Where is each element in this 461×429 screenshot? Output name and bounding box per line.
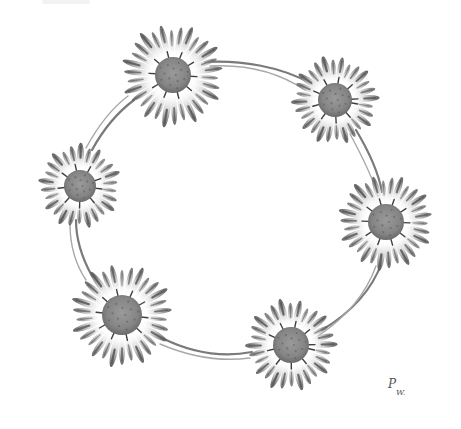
flower-center — [64, 170, 96, 202]
daisy-top-left — [122, 25, 223, 128]
petal — [403, 220, 428, 225]
stem-top-right-to-right — [356, 130, 382, 192]
flower-center — [155, 57, 191, 93]
daisy-right — [338, 176, 432, 271]
daisy-left — [38, 143, 121, 229]
petal — [308, 341, 338, 348]
flower-center — [318, 83, 352, 117]
daisy-wreath-illustration — [0, 0, 461, 429]
flowers — [38, 25, 432, 391]
stem-left-to-top-left — [92, 100, 134, 150]
flower-center — [102, 295, 142, 335]
petal — [120, 270, 124, 295]
signature-initial-p: P — [388, 378, 396, 390]
petal — [171, 93, 178, 125]
daisy-top-right — [291, 55, 380, 143]
petal — [77, 143, 84, 170]
stem-top-to-top-right-b — [210, 66, 305, 90]
petal — [77, 201, 82, 224]
petal — [289, 362, 294, 387]
daisy-bottom-right — [245, 298, 337, 391]
petal — [245, 342, 273, 349]
stem-left-to-top-left-b — [86, 96, 128, 148]
stem-bottom-left-to-left-b — [70, 224, 86, 280]
signature-initial-w: W. — [396, 389, 405, 397]
stem-right-to-bottom-right-b — [318, 266, 376, 336]
petal — [169, 30, 174, 57]
stem-bottom-right-to-bottom-left — [162, 338, 252, 354]
petal — [288, 303, 294, 327]
petal — [119, 335, 125, 365]
flower-center — [273, 327, 309, 363]
flower-center — [368, 204, 404, 240]
